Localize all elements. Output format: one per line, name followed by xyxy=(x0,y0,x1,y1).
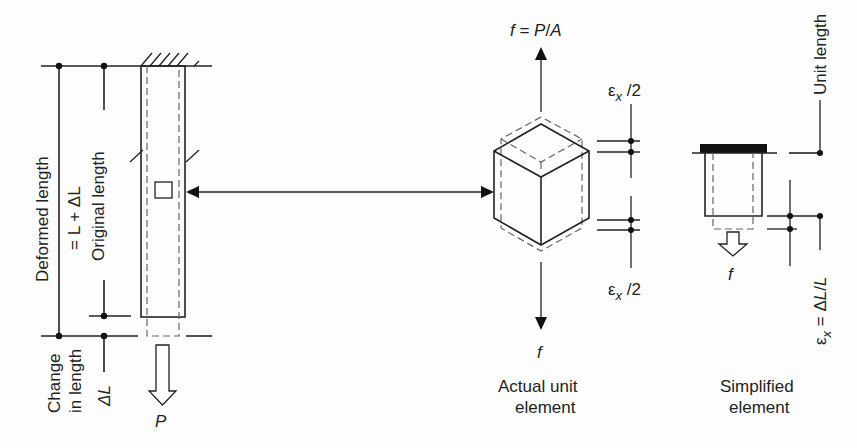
change-label-line2: in length xyxy=(66,349,85,413)
simplified-caption-line2: element xyxy=(729,398,790,417)
change-label-line1: Change xyxy=(45,353,64,413)
unit-element-square xyxy=(155,182,172,198)
load-arrow-icon xyxy=(719,232,747,256)
strain-top-label: εx /2 xyxy=(608,81,641,104)
strain-dimensions xyxy=(597,104,640,268)
actual-caption-line2: element xyxy=(515,398,576,417)
actual-caption-line1: Actual unit xyxy=(498,377,578,396)
unit-length-label: Unit length xyxy=(811,14,830,95)
load-label: P xyxy=(155,412,167,431)
fixed-plate xyxy=(700,144,767,153)
load-arrow-icon xyxy=(149,345,176,405)
connector-arrow xyxy=(186,186,494,198)
break-mark-right xyxy=(186,150,199,162)
arrowhead-left-icon xyxy=(186,186,199,198)
simplified-deformed-element xyxy=(713,153,753,229)
arrowhead-right-icon xyxy=(481,186,494,198)
strain-bottom-label: εx /2 xyxy=(608,280,641,303)
deformed-length-equation: = L + ΔL xyxy=(65,186,84,250)
original-length-label: Original length xyxy=(89,151,108,261)
arrowhead-down-icon xyxy=(535,317,547,330)
original-cube xyxy=(494,124,589,245)
deformed-bar xyxy=(147,66,179,336)
axial-strain-diagram: Deformed length = L + ΔL Original length… xyxy=(0,0,857,448)
arrowhead-up-icon xyxy=(535,47,547,60)
fixed-support-hatch xyxy=(141,53,199,66)
actual-element-figure: f = P/A f xyxy=(494,21,641,417)
bar-figure: Deformed length = L + ΔL Original length… xyxy=(33,53,212,431)
change-symbol: ΔL xyxy=(95,385,114,407)
stress-bottom-label: f xyxy=(537,343,544,362)
simplified-strain-label: εx = ΔL/L xyxy=(811,277,834,346)
simplified-element-figure: f Unit length εx = ΔL/L Simplified eleme… xyxy=(692,0,834,417)
simplified-load-label: f xyxy=(728,265,735,284)
simplified-caption-line1: Simplified xyxy=(720,377,794,396)
stress-top-label: f = P/A xyxy=(510,21,562,40)
deformed-length-label: Deformed length xyxy=(33,156,52,282)
